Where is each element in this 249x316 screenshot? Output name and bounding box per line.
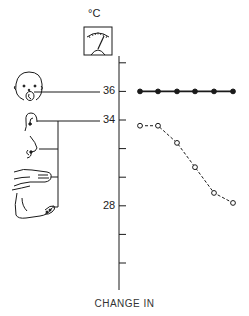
open-data-point (175, 140, 180, 145)
open-data-point (212, 191, 217, 196)
unit-label: °C (88, 7, 100, 19)
face-mouth-icon (14, 72, 42, 101)
filled-data-point (231, 89, 236, 94)
chart-canvas (0, 0, 249, 316)
axis-tick-label: 34 (103, 113, 115, 125)
filled-data-point (175, 89, 180, 94)
open-data-point (231, 201, 236, 206)
open-data-point (138, 123, 143, 128)
nose-icon (27, 136, 37, 158)
temperature-figure: °C 363428 CHANGE IN (0, 0, 249, 316)
y-axis (119, 56, 126, 290)
hand-icon (12, 169, 51, 190)
filled-data-point (193, 89, 198, 94)
open-data-point (193, 165, 198, 170)
ear-icon (25, 113, 37, 131)
filled-data-point (138, 89, 143, 94)
chart-caption: CHANGE IN (0, 298, 249, 309)
data-series (138, 89, 236, 205)
axis-tick-label: 28 (103, 199, 115, 211)
axis-tick-label: 36 (103, 84, 115, 96)
foot-icon (15, 193, 54, 218)
filled-data-point (156, 89, 161, 94)
peripheral-series-line (140, 126, 233, 203)
thermometer-gauge-icon (84, 27, 112, 55)
open-data-point (156, 123, 161, 128)
filled-data-point (212, 89, 217, 94)
peripheral-bracket (37, 121, 100, 207)
